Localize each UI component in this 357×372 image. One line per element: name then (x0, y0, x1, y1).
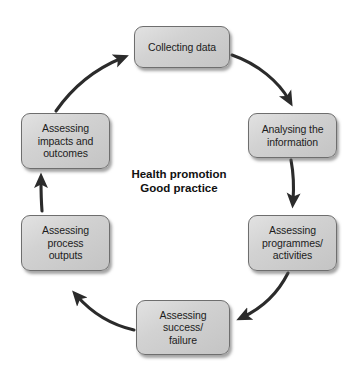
arrow-collecting-data-to-analysing (232, 55, 289, 100)
node-label: Assessing impacts and outcomes (35, 122, 97, 160)
node-collecting-data[interactable]: Collecting data (134, 26, 230, 68)
node-analysing-the-information[interactable]: Analysing the information (248, 113, 337, 158)
node-assessing-process-outputs[interactable]: Assessing process outputs (21, 215, 110, 271)
arrow-analysing-to-programmes (291, 160, 294, 201)
node-assessing-programmes-activities[interactable]: Assessing programmes/ activities (248, 215, 337, 271)
node-label: Assessing programmes/ activities (259, 224, 326, 262)
arrow-process-outputs-to-impacts (41, 180, 42, 211)
node-label: Analysing the information (259, 123, 327, 148)
node-assessing-success-failure[interactable]: Assessing success/ failure (136, 300, 230, 355)
node-label: Collecting data (145, 41, 219, 54)
arrow-programmes-to-success-failure (243, 273, 288, 317)
diagram-center-title: Health promotion Good practice (94, 167, 264, 195)
cycle-diagram: Collecting data Analysing the informatio… (0, 0, 357, 372)
arrow-impacts-to-collecting-data (56, 58, 122, 111)
node-label: Assessing process outputs (39, 224, 92, 262)
node-label: Assessing success/ failure (157, 309, 210, 347)
node-assessing-impacts-outcomes[interactable]: Assessing impacts and outcomes (21, 113, 110, 169)
arrow-success-failure-to-process-outputs (77, 296, 134, 330)
